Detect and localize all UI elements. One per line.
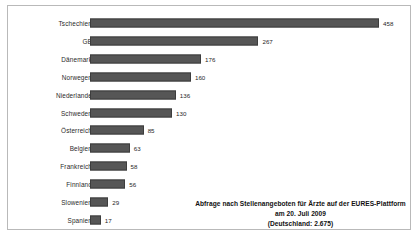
category-label: Spanien [67,216,92,223]
bar-value-label: 160 [195,73,205,80]
chart-annotation: Abfrage nach Stellenangeboten für Ärzte … [193,199,408,229]
bar [90,144,130,153]
bar-value-label: 56 [129,181,136,188]
bar [90,180,125,189]
bar-row: Norwegen160 [8,68,410,86]
bar [90,19,379,28]
bar-value-label: 176 [205,55,215,62]
bar-chart-plot-area: Tschechien458GB267Dänemark176Norwegen160… [8,6,410,229]
chart-frame: Tschechien458GB267Dänemark176Norwegen160… [7,5,411,230]
category-label: Niederlande [56,91,92,98]
bar [90,126,144,135]
bar [90,90,176,99]
bar-value-label: 63 [134,145,141,152]
category-label: Finnland [66,181,92,188]
category-label: Frankreich [60,163,92,170]
bar-row: Niederlande136 [8,86,410,104]
annotation-line-2: (Deutschland: 2.675) [193,219,408,229]
bar [90,36,258,45]
category-label: Norwegen [62,73,92,80]
bar-value-label: 58 [131,163,138,170]
bar-value-label: 458 [383,20,393,27]
bar [90,108,172,117]
bar-row: Österreich85 [8,121,410,139]
bar-value-label: 267 [262,37,272,44]
bar-value-label: 29 [112,199,119,206]
bar-row: Belgien63 [8,139,410,157]
bar-row: Finnland56 [8,175,410,193]
bar-row: Dänemark176 [8,50,410,68]
category-label: Tschechien [59,20,92,27]
bar [90,162,127,171]
bar [90,215,101,224]
annotation-line-1: Abfrage nach Stellenangeboten für Ärzte … [195,200,406,217]
category-label: Schweden [61,109,92,116]
bar-value-label: 17 [105,216,112,223]
bar-row: Schweden130 [8,104,410,122]
category-label: Slowenien [61,199,92,206]
bar [90,72,191,81]
bar [90,54,201,63]
bar-value-label: 85 [148,127,155,134]
bar-row: Frankreich58 [8,157,410,175]
category-label: Dänemark [61,55,92,62]
category-label: Österreich [61,127,92,134]
category-label: Belgien [70,145,92,152]
bar-row: GB267 [8,32,410,50]
bar [90,198,108,207]
bar-row: Tschechien458 [8,14,410,32]
bar-value-label: 130 [176,109,186,116]
bar-value-label: 136 [180,91,190,98]
